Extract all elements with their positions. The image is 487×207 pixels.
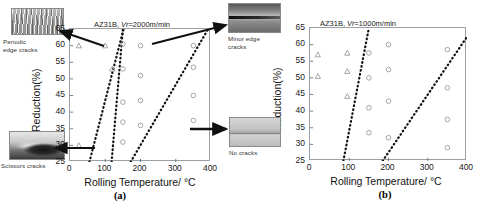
data-point-circle (367, 130, 372, 135)
y-tick-label: 30 (285, 139, 305, 148)
y-tick-label: 35 (285, 123, 305, 132)
inset-minor-edge-cracks (228, 3, 281, 33)
y-tick-label: 60 (45, 40, 65, 49)
data-point-circle (367, 51, 372, 56)
y-tick-label: 55 (45, 57, 65, 66)
y-tick-label: 50 (285, 73, 305, 82)
y-tick-label: 65 (45, 24, 65, 33)
y-tick-label: 40 (285, 106, 305, 115)
plot-a-x-axis-title: Rolling Temperature/ °C (59, 176, 221, 188)
y-tick-label: 35 (45, 124, 65, 133)
data-point-circle (138, 43, 143, 48)
data-point-triangle (345, 50, 350, 55)
plot-b-x-axis-title: Rolling Temperature/ °C (296, 175, 476, 187)
data-point-circle (386, 67, 391, 72)
data-point-circle (386, 99, 391, 104)
inset-minor-edge-cracks-label: Minor edge cracks (228, 35, 290, 51)
data-point-triangle (76, 143, 81, 148)
data-point-circle (386, 42, 391, 47)
data-point-triangle (345, 94, 350, 99)
data-point-triangle (315, 74, 320, 79)
periodic-boundary (112, 29, 123, 162)
data-point-circle (445, 47, 450, 52)
data-point-circle (138, 73, 143, 78)
inset-no-cracks (229, 117, 281, 147)
data-point-circle (191, 65, 196, 70)
data-point-circle (121, 100, 126, 105)
panel-a-caption: (a) (99, 190, 141, 201)
data-point-circle (367, 106, 372, 111)
data-point-circle (121, 67, 126, 72)
data-point-circle (445, 145, 450, 150)
y-tick-label: 45 (285, 89, 305, 98)
plot-a-canvas (70, 29, 211, 162)
data-point-triangle (315, 52, 320, 57)
right-boundary (383, 38, 467, 161)
x-tick-label: 200 (129, 164, 151, 173)
plot-a-y-axis-title: Reduction(%) (30, 68, 42, 132)
data-point-triangle (76, 43, 81, 48)
data-point-circle (445, 86, 450, 91)
data-point-circle (121, 140, 126, 145)
data-point-circle (191, 93, 196, 98)
data-point-circle (121, 42, 126, 47)
x-tick-label: 100 (93, 164, 115, 173)
x-tick-label: 100 (337, 163, 359, 172)
micrograph-minor-edge-cracks (228, 3, 281, 33)
inset-no-cracks-label: No cracks (229, 149, 291, 157)
data-point-triangle (345, 69, 350, 74)
scissors-boundary (89, 29, 123, 162)
x-tick-label: 200 (377, 163, 399, 172)
data-point-circle (121, 120, 126, 125)
data-point-circle (138, 98, 143, 103)
y-tick-label: 55 (285, 56, 305, 65)
x-tick-label: 300 (416, 163, 438, 172)
plot-b-area (309, 27, 466, 160)
y-tick-label: 50 (45, 74, 65, 83)
micrograph-no-cracks (229, 117, 281, 147)
data-point-circle (191, 43, 196, 48)
x-tick-label: 400 (455, 163, 477, 172)
x-tick-label: 300 (164, 164, 186, 173)
figure-root: AZ31B, Vr=2000m/min Reduction(%) Rolling… (0, 0, 487, 207)
data-point-circle (367, 76, 372, 81)
y-tick-label: 60 (285, 39, 305, 48)
data-point-circle (138, 123, 143, 128)
y-tick-label: 45 (45, 90, 65, 99)
plot-a-area (69, 28, 210, 161)
y-tick-label: 40 (45, 107, 65, 116)
y-tick-label: 65 (285, 23, 305, 32)
x-tick-label: 0 (58, 164, 80, 173)
data-point-circle (191, 118, 196, 123)
y-tick-label: 30 (45, 140, 65, 149)
panel-b-caption: (b) (364, 189, 406, 200)
data-point-circle (445, 117, 450, 122)
data-point-circle (386, 135, 391, 140)
plot-b-canvas (310, 28, 467, 161)
data-point-triangle (103, 43, 108, 48)
x-tick-label: 400 (199, 164, 221, 173)
x-tick-label: 0 (298, 163, 320, 172)
minor-edge-boundary (131, 29, 209, 162)
